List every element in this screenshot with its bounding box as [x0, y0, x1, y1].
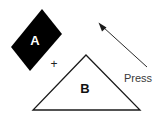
plus-sign: +: [50, 57, 57, 71]
figure-canvas: A + B Press: [0, 0, 162, 113]
shape-label-a: A: [30, 33, 40, 48]
press-label: Press: [124, 72, 153, 84]
shape-label-b: B: [80, 81, 89, 96]
shape-diagram: A + B Press: [0, 0, 162, 113]
